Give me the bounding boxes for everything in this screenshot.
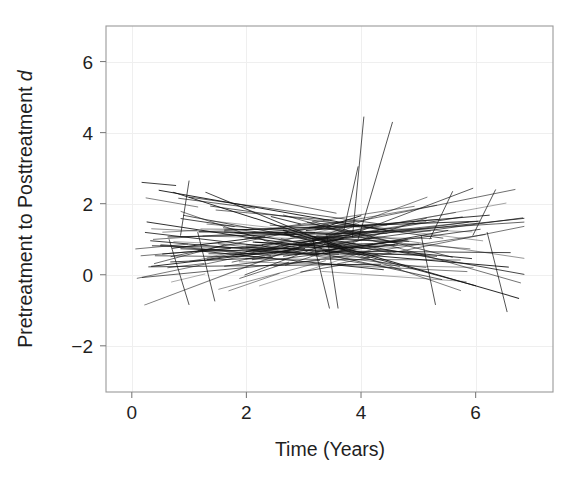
x-tick-label: 6 xyxy=(470,402,481,423)
x-tick-label: 4 xyxy=(356,402,367,423)
y-tick-label: 2 xyxy=(82,194,93,215)
y-tick-label: 0 xyxy=(82,265,93,286)
y-axis-title: Pretreatment to Posttreatment d xyxy=(14,69,36,348)
y-tick-label: 4 xyxy=(82,123,93,144)
y-tick-label: 6 xyxy=(82,52,93,73)
y-tick-label: −2 xyxy=(71,336,93,357)
x-tick-label: 0 xyxy=(126,402,137,423)
spaghetti-chart: 0246 −20246 Time (Years) Pretreatment to… xyxy=(0,0,582,477)
x-axis-title: Time (Years) xyxy=(275,438,385,460)
chart-figure: 0246 −20246 Time (Years) Pretreatment to… xyxy=(0,0,582,477)
x-tick-label: 2 xyxy=(241,402,252,423)
